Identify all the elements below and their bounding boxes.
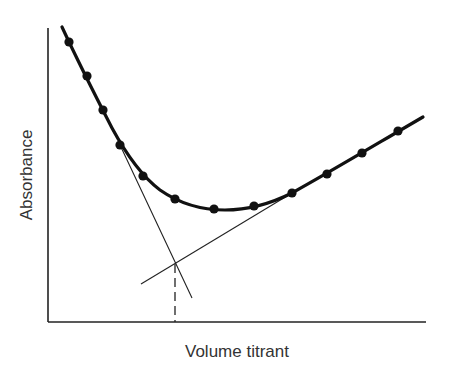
data-point [287,188,296,197]
data-points [64,37,402,213]
data-point [393,126,402,135]
data-point [209,204,218,213]
data-point [322,169,331,178]
y-axis-label: Absorbance [17,130,36,221]
axes [48,28,426,322]
titration-curve [62,27,423,210]
data-point [357,148,366,157]
data-point [170,194,179,203]
data-point [82,71,91,80]
data-point [115,140,124,149]
titration-chart: Volume titrant Absorbance [0,0,449,375]
x-axis-label: Volume titrant [185,342,289,361]
data-point [138,171,147,180]
data-point [64,37,73,46]
data-point [98,105,107,114]
data-point [249,201,258,210]
